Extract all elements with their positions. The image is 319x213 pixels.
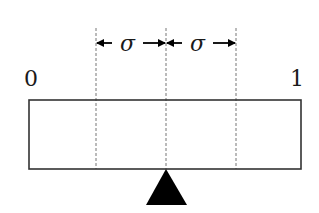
sigma-interval-right: σ [167,31,235,56]
balance-diagram: 0 1 σ σ [0,0,319,213]
scale-label-one: 1 [290,66,304,91]
sigma-label-left: σ [120,31,136,56]
beam [29,100,301,169]
scale-label-zero: 0 [24,66,38,91]
sigma-interval-left: σ [97,31,165,56]
fulcrum-triangle-icon [146,169,187,205]
dashed-guides [96,28,236,169]
sigma-label-right: σ [190,31,206,56]
